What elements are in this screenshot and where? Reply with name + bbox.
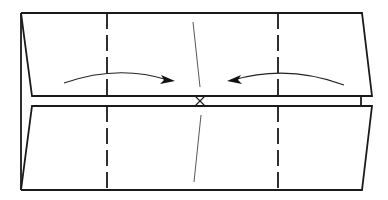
arrowhead-left-icon [227,75,242,84]
top-center-crease [193,22,200,87]
fold-right-to-center-arrow [227,73,344,85]
bottom-flap [21,106,372,190]
fold-left-to-center-arrow [64,73,175,84]
bottom-flap-outline [21,106,372,190]
arrowhead-right-icon [160,75,175,84]
bottom-center-crease [194,115,201,182]
center-x-mark [195,96,205,106]
origami-diagram [0,0,388,200]
